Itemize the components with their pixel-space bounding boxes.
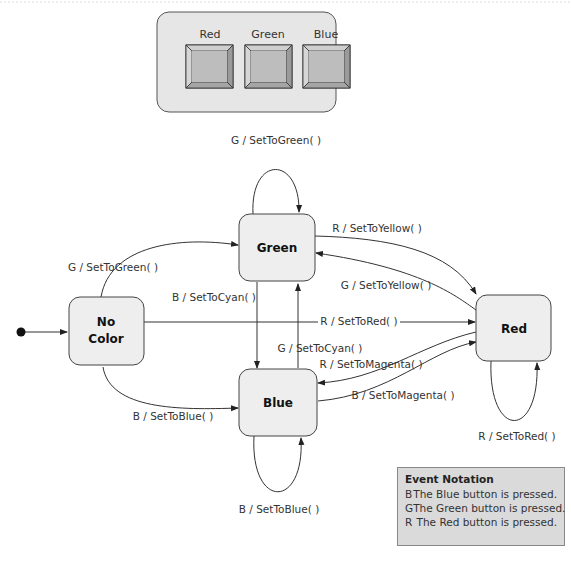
legend-text: The Green button is pressed. — [413, 502, 565, 514]
legend-title: Event Notation — [405, 473, 557, 485]
state-blue-label: Blue — [263, 396, 293, 410]
label-green-red: R / SetToYellow( ) — [332, 222, 422, 234]
blue-self-loop — [254, 436, 301, 492]
legend-text: The Blue button is pressed. — [413, 488, 557, 500]
legend-key: R — [405, 516, 417, 528]
label-red-blue: R / SetToMagenta( ) — [319, 358, 422, 370]
label-red-green: G / SetToYellow( ) — [341, 279, 432, 291]
label-green-blue: B / SetToCyan( ) — [172, 291, 256, 303]
red-self-loop — [491, 361, 537, 421]
label-green-self: G / SetToGreen( ) — [231, 134, 321, 146]
legend-key: G — [405, 502, 413, 514]
blue-button-label: Blue — [314, 28, 339, 41]
state-red-label: Red — [501, 322, 527, 336]
button-panel: Red Green Blue — [157, 12, 350, 112]
green-button-label: Green — [251, 28, 284, 41]
state-no-color-line2: Color — [88, 332, 123, 346]
label-nocolor-green: G / SetToGreen( ) — [68, 261, 158, 273]
red-button-label: Red — [200, 28, 221, 41]
state-green: Green — [239, 214, 315, 281]
label-blue-red: B / SetToMagenta( ) — [351, 389, 454, 401]
legend-item: R The Red button is pressed. — [405, 516, 557, 528]
state-no-color-line1: No — [97, 315, 115, 329]
label-nocolor-blue: B / SetToBlue( ) — [133, 410, 213, 422]
legend-key: B — [405, 488, 413, 500]
legend-item: B The Blue button is pressed. — [405, 488, 557, 500]
label-red-self: R / SetToRed( ) — [478, 430, 555, 442]
legend-item: G The Green button is pressed. — [405, 502, 557, 514]
state-green-label: Green — [257, 241, 298, 255]
state-no-color: No Color — [69, 297, 144, 365]
initial-state-dot — [17, 328, 26, 337]
label-nocolor-red: R / SetToRed( ) — [320, 315, 397, 327]
label-blue-self: B / SetToBlue( ) — [239, 503, 319, 515]
legend-text: The Red button is pressed. — [417, 516, 557, 528]
state-red: Red — [476, 295, 551, 361]
event-notation-legend: Event Notation B The Blue button is pres… — [397, 467, 565, 546]
green-self-loop — [253, 169, 299, 214]
label-blue-green: G / SetToCyan( ) — [278, 342, 363, 354]
edge-nocolor-blue — [103, 367, 238, 409]
state-blue: Blue — [239, 369, 317, 436]
